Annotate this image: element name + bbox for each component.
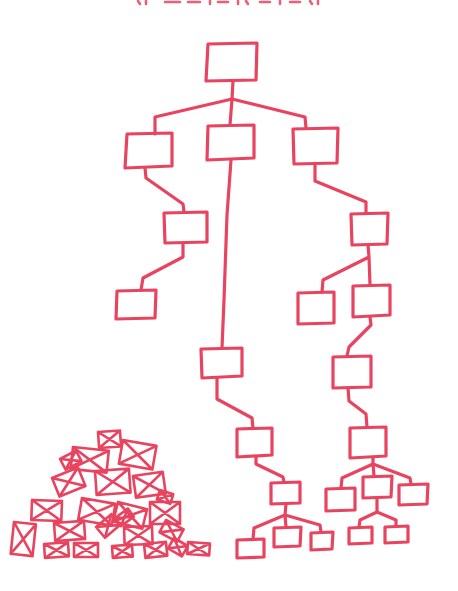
envelope-icon xyxy=(187,542,210,556)
box-r4 xyxy=(333,356,371,388)
envelope-pile xyxy=(11,430,210,558)
box-r3b xyxy=(353,285,390,317)
box-l1c xyxy=(293,128,338,164)
root-box xyxy=(206,43,257,81)
box-c5 xyxy=(237,428,272,457)
hierarchy-vs-pile-illustration xyxy=(0,0,458,591)
envelope-icon xyxy=(54,521,85,541)
box-l1b xyxy=(207,125,254,160)
box-r7b xyxy=(385,526,408,543)
envelope-icon xyxy=(98,430,121,447)
envelope-icon xyxy=(31,500,62,521)
envelope-icon xyxy=(112,545,133,558)
box-c7c xyxy=(311,532,333,550)
envelope-icon xyxy=(52,468,85,497)
box-l1a xyxy=(125,133,172,168)
envelope-icon xyxy=(44,542,69,558)
box-r3a xyxy=(298,292,334,324)
box-l2a xyxy=(164,212,207,243)
box-c4 xyxy=(201,348,242,378)
envelope-icon xyxy=(74,543,98,557)
envelope-icon xyxy=(119,440,157,470)
envelope-icon xyxy=(11,522,36,556)
box-r6c xyxy=(399,484,428,505)
box-c7b xyxy=(274,527,301,547)
box-r6a xyxy=(326,488,355,511)
clipped-title xyxy=(138,1,318,4)
box-c6 xyxy=(271,482,300,504)
envelope-icon xyxy=(168,538,188,556)
envelope-icon xyxy=(133,472,166,498)
envelope-icon xyxy=(115,509,134,526)
box-c7a xyxy=(237,539,264,558)
box-l3a xyxy=(116,290,156,319)
envelope-icon xyxy=(144,542,167,558)
box-r5 xyxy=(350,427,386,458)
box-r6b xyxy=(363,476,392,498)
box-r7a xyxy=(349,527,372,544)
box-r2 xyxy=(351,213,388,245)
